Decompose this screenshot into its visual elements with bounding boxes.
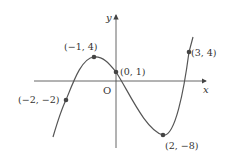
point-neg1-4 [92,55,97,60]
point-0-1 [114,70,119,75]
label-neg2-neg2: (−2, −2) [18,94,59,105]
point-2-neg8 [161,133,166,138]
label-2-neg8: (2, −8) [165,140,199,151]
origin-label: O [103,85,111,96]
label-neg1-4: (−1, 4) [64,41,98,52]
label-0-1: (0, 1) [120,66,146,77]
cubic-graph: x y O (−2, −2) (−1, 4) (0, 1) (2, −8) (3… [0,0,228,161]
y-axis-label: y [105,12,112,23]
point-neg2-neg2 [64,98,69,103]
cubic-curve [53,37,193,137]
x-axis-label: x [203,84,209,95]
label-3-4: (3, 4) [191,47,217,58]
